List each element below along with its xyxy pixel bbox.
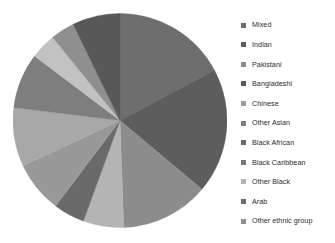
legend-color-swatch-icon <box>241 219 246 224</box>
legend-color-swatch-icon <box>241 101 246 106</box>
legend-item[interactable]: Other ethnic group <box>241 215 312 227</box>
legend-item-label: Chinese <box>252 100 279 107</box>
legend-item-label: Mixed <box>252 21 271 28</box>
legend-color-swatch-icon <box>241 199 246 204</box>
legend-item[interactable]: Other Asian <box>241 117 290 129</box>
legend-item-label: Black African <box>252 139 294 146</box>
legend-item-label: Indian <box>252 41 272 48</box>
pie-chart-svg <box>13 13 227 228</box>
legend-item[interactable]: Arab <box>241 195 267 207</box>
legend-item[interactable]: Bangladeshi <box>241 78 292 90</box>
legend-item-label: Other Asian <box>252 119 290 126</box>
pie-chart-plot-area <box>13 13 227 228</box>
legend-color-swatch-icon <box>241 160 246 165</box>
legend-item-label: Pakistani <box>252 61 282 68</box>
legend-item[interactable]: Indian <box>241 39 272 51</box>
pie-slice-group <box>13 14 227 228</box>
legend-color-swatch-icon <box>241 42 246 47</box>
legend-item-label: Bangladeshi <box>252 80 292 87</box>
chart-legend: MixedIndianPakistaniBangladeshiChineseOt… <box>241 14 335 234</box>
legend-item[interactable]: Pakistani <box>241 58 282 70</box>
legend-item-label: Other ethnic group <box>252 217 312 224</box>
legend-item[interactable]: Black Caribbean <box>241 156 306 168</box>
legend-color-swatch-icon <box>241 23 246 28</box>
legend-item[interactable]: Mixed <box>241 19 271 31</box>
legend-color-swatch-icon <box>241 62 246 67</box>
legend-color-swatch-icon <box>241 121 246 126</box>
legend-color-swatch-icon <box>241 179 246 184</box>
legend-item[interactable]: Black African <box>241 137 294 149</box>
legend-item[interactable]: Chinese <box>241 97 279 109</box>
legend-color-swatch-icon <box>241 81 246 86</box>
legend-color-swatch-icon <box>241 140 246 145</box>
pie-chart-figure: MixedIndianPakistaniBangladeshiChineseOt… <box>0 0 335 243</box>
legend-item-label: Black Caribbean <box>252 159 306 166</box>
legend-item[interactable]: Other Black <box>241 176 290 188</box>
legend-item-label: Arab <box>252 198 267 205</box>
legend-item-label: Other Black <box>252 178 290 185</box>
